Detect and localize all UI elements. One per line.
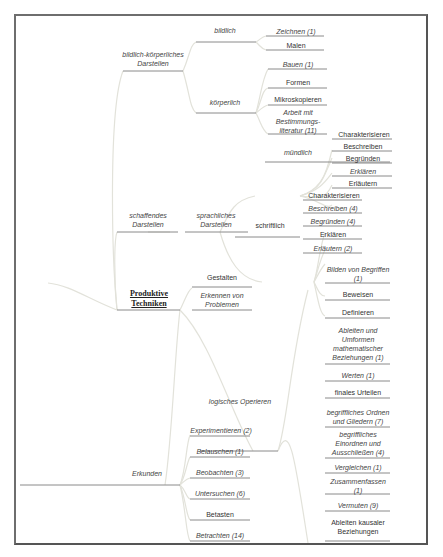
node-m-begruenden[interactable]: Begründen	[334, 154, 392, 163]
node-l-begriffliches-ordnen[interactable]: begriffliches Ordnen und Gliedern (7)	[326, 408, 390, 426]
node-l-vermuten[interactable]: Vermuten (9)	[326, 501, 390, 510]
node-e-experimentieren[interactable]: Experimentieren (2)	[188, 426, 254, 435]
branch-root-gestalten	[180, 288, 192, 310]
node-s-erklaeren[interactable]: Erklären	[304, 230, 362, 239]
node-e-betasten[interactable]: Betasten	[190, 510, 250, 519]
node-schaffendes-darstellen[interactable]: schaffendes Darstellen	[122, 211, 174, 229]
node-e-belauschen[interactable]: Belauschen (1)	[190, 447, 250, 456]
node-erkennen-von-problemen[interactable]: Erkennen von Problemen	[194, 291, 250, 309]
node-arbeit-mit-bestimmungsliteratur[interactable]: Arbeit mit Bestimmungs-literatur (11)	[274, 108, 322, 135]
node-l-vergleichen[interactable]: Vergleichen (1)	[326, 463, 390, 472]
node-s-begruenden[interactable]: Begründen (4)	[304, 217, 362, 226]
node-l-zusammenfassen[interactable]: Zusammenfassen (1)	[326, 477, 390, 495]
node-muendlich[interactable]: mündlich	[272, 148, 324, 157]
node-formen[interactable]: Formen	[270, 78, 326, 87]
node-m-erklaeren[interactable]: Erklären	[334, 167, 392, 176]
node-e-beobachten[interactable]: Beobachten (3)	[190, 468, 250, 477]
node-l-bilden-von-begriffen[interactable]: Bilden von Begriffen (1)	[326, 265, 390, 283]
node-bildlich[interactable]: bildlich	[200, 26, 250, 35]
node-m-beschreiben[interactable]: Beschreiben	[334, 142, 392, 151]
node-schriftlich[interactable]: schriftlich	[245, 221, 295, 230]
node-sprachliches-darstellen[interactable]: sprachliches Darstellen	[190, 211, 242, 229]
node-s-charakterisieren[interactable]: Charakterisieren	[304, 191, 364, 200]
node-l-definieren[interactable]: Definieren	[326, 308, 390, 317]
node-e-untersuchen[interactable]: Untersuchen (6)	[190, 489, 250, 498]
branch-root-bildlich	[112, 71, 123, 310]
node-l-finales-urteilen[interactable]: finales Urteilen	[326, 388, 390, 397]
node-m-erlaeutern[interactable]: Erläutern	[334, 179, 392, 188]
node-gestalten[interactable]: Gestalten	[194, 273, 250, 282]
node-s-erlaeutern[interactable]: Erläutern (2)	[304, 244, 362, 253]
branch-root-schaffendes	[115, 232, 117, 310]
node-l-werten[interactable]: Werten (1)	[326, 371, 390, 380]
node-m-charakterisieren[interactable]: Charakterisieren	[334, 130, 394, 139]
branch-root-decor	[48, 283, 117, 310]
root-node[interactable]: Produktive Techniken	[120, 289, 178, 309]
node-koerperlich[interactable]: körperlich	[200, 98, 250, 107]
node-l-ableiten-kausal[interactable]: Ableiten kausaler Beziehungen	[326, 518, 390, 536]
node-zeichnen[interactable]: Zeichnen (1)	[268, 27, 324, 36]
node-bauen[interactable]: Bauen (1)	[270, 60, 326, 69]
node-bildlich-koerperliches-darstellen[interactable]: bildlich-körperliches Darstellen	[118, 50, 188, 68]
node-logisches-operieren[interactable]: logisches Operieren	[205, 397, 275, 406]
branch-root-erkunden	[165, 310, 180, 485]
node-l-beweisen[interactable]: Beweisen	[326, 290, 390, 299]
node-s-beschreiben[interactable]: Beschreiben (4)	[304, 204, 362, 213]
node-l-begriffliches-einordnen[interactable]: begriffliches Einordnen und Ausschließen…	[326, 430, 390, 457]
node-e-betrachten[interactable]: Betrachten (14)	[190, 531, 250, 540]
node-malen[interactable]: Malen	[268, 41, 324, 50]
node-l-ableiten-umformen[interactable]: Ableiten und Umformen mathematischer Bez…	[326, 326, 390, 362]
node-erkunden[interactable]: Erkunden	[120, 469, 174, 478]
node-mikroskopieren[interactable]: Mikroskopieren	[270, 95, 326, 104]
